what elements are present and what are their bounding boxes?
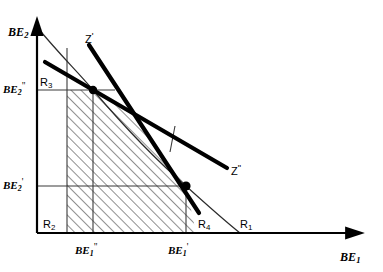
diagram-canvas bbox=[0, 0, 383, 272]
upper-tangency-point bbox=[89, 86, 97, 94]
region-label-r2: R2 bbox=[43, 219, 55, 232]
y-axis-label: BE2 bbox=[8, 26, 29, 40]
region-label-r3: R3 bbox=[40, 77, 52, 90]
y-tick-be2-prime: BE2' bbox=[3, 178, 23, 193]
x-tick-be1-prime: BE1' bbox=[168, 243, 188, 258]
x-tick-be1-double-prime: BE1" bbox=[75, 243, 98, 258]
x-axis-label: BE1 bbox=[340, 251, 361, 265]
y-tick-be2-double-prime: BE2" bbox=[3, 82, 26, 97]
region-label-r4: R4 bbox=[198, 219, 210, 232]
diagram-figure: BE2 BE1 BE2" BE2' BE1" BE1' R3 R2 R4 R1 … bbox=[0, 0, 383, 272]
curve-label-z-double-prime: Z" bbox=[231, 164, 241, 177]
lower-tangency-point bbox=[181, 181, 190, 190]
region-label-r1: R1 bbox=[240, 219, 252, 232]
curve-label-z-prime: Z' bbox=[85, 32, 94, 45]
